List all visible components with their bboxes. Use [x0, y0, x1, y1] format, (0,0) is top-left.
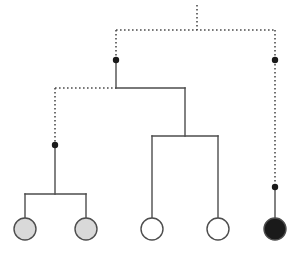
node-dot-layer — [52, 57, 278, 190]
phylogenetic-tree-figure — [0, 0, 302, 257]
internal-node-dot-n3[interactable] — [52, 142, 58, 148]
taxon-circle-t3[interactable] — [141, 218, 163, 240]
taxon-layer — [14, 218, 286, 240]
internal-node-dot-n2[interactable] — [272, 57, 278, 63]
taxon-circle-t5[interactable] — [264, 218, 286, 240]
branch-layer — [25, 5, 275, 218]
taxon-circle-t1[interactable] — [14, 218, 36, 240]
internal-node-dot-n4[interactable] — [272, 184, 278, 190]
tree-canvas — [0, 0, 302, 257]
internal-node-dot-n1[interactable] — [113, 57, 119, 63]
taxon-circle-t4[interactable] — [207, 218, 229, 240]
taxon-circle-t2[interactable] — [75, 218, 97, 240]
